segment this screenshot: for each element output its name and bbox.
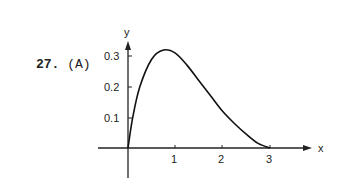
y-tick-0.3: 0.3 bbox=[104, 50, 119, 62]
x-tick-1: 1 bbox=[171, 153, 177, 165]
x-axis-label: x bbox=[318, 142, 324, 154]
y-axis-label: y bbox=[124, 26, 130, 38]
y-axis-arrow-icon bbox=[125, 41, 131, 50]
x-tick-2: 2 bbox=[218, 153, 224, 165]
chart: x y 1 2 3 0.1 0.2 0.3 bbox=[0, 0, 338, 185]
y-tick-0.1: 0.1 bbox=[104, 112, 119, 124]
y-tick-0.2: 0.2 bbox=[104, 81, 119, 93]
data-curve bbox=[128, 50, 270, 148]
x-tick-3: 3 bbox=[266, 153, 272, 165]
x-axis-arrow-icon bbox=[303, 145, 312, 151]
